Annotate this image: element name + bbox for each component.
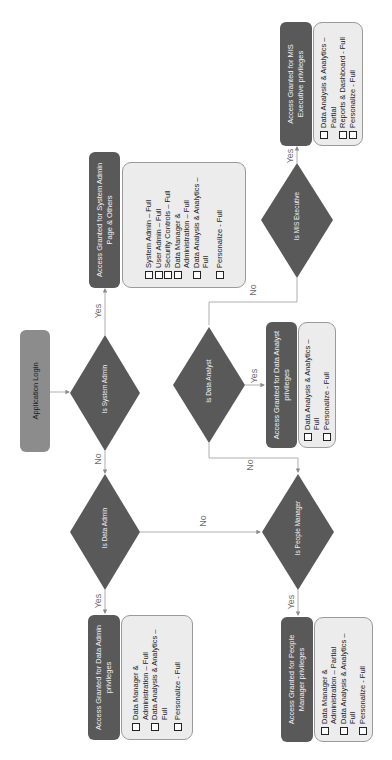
checkbox-icon	[304, 433, 312, 441]
outcome-title: Access Granted for Data Admin privileges	[94, 621, 114, 734]
checkbox-icon	[349, 131, 357, 139]
checkbox-icon	[155, 271, 163, 279]
privilege-item: Personalize - Full	[348, 29, 358, 139]
outcome-body-data-analyst: Data Analysis & Analytics – Full Persona…	[298, 322, 336, 448]
privilege-item: Data Analysis & Analytics – Full	[150, 624, 169, 731]
checkbox-icon	[339, 131, 347, 139]
checkbox-icon	[340, 727, 348, 735]
privilege-item: Data Manager & Administration – Full	[173, 171, 192, 279]
edge-label-mis-executive-yes: Yes	[285, 144, 295, 168]
checkbox-icon	[164, 271, 172, 279]
decision-label-mis-executive: Is MIS Executive	[293, 186, 301, 246]
edge-label-mis-executive-no: No	[248, 278, 258, 302]
checkbox-icon	[320, 131, 328, 139]
privilege-item: Personalize - Full	[215, 171, 225, 279]
outcome-title: Access Granted for MIS Executive privile…	[286, 28, 306, 140]
outcome-title: Access Granted for People Manager privil…	[287, 623, 307, 736]
checkbox-icon	[216, 271, 224, 279]
edge-label-data-analyst-no: No	[245, 453, 255, 477]
outcome-header-mis-executive: Access Granted for MIS Executive privile…	[280, 22, 312, 146]
privilege-item: Personalize - Full	[173, 624, 183, 731]
privilege-item: Data Manager & Administration – Full	[131, 624, 150, 731]
edge-label-data-analyst-yes: Yes	[249, 364, 259, 388]
start-label: Application Login	[31, 362, 40, 419]
edge-label-system-admin-yes: Yes	[93, 299, 103, 323]
privilege-item: Data Analysis & Analytics – Full	[303, 329, 322, 441]
checkbox-icon	[193, 271, 201, 279]
checkbox-icon	[174, 723, 182, 731]
checkbox-icon	[323, 433, 331, 441]
decision-label-data-admin: Is Data Admin	[101, 498, 109, 558]
decision-label-people-manager: Is People Manager	[294, 498, 302, 558]
checkbox-icon	[151, 723, 159, 731]
privilege-item: System Admin – Full	[144, 171, 154, 279]
checkbox-icon	[359, 727, 367, 735]
privilege-item: Personalize - Full	[358, 624, 368, 735]
privilege-item: Data Analysis & Analytics – Partial	[319, 29, 338, 139]
checkbox-icon	[145, 271, 153, 279]
edge-label-data-admin-yes: Yes	[93, 589, 103, 613]
outcome-header-people-manager: Access Granted for People Manager privil…	[281, 617, 313, 742]
outcome-header-system-admin: Access Granted for System Admin Page & O…	[89, 152, 120, 288]
outcome-body-data-admin: Data Manager & Administration – Full Dat…	[121, 615, 193, 740]
outcome-header-data-analyst: Access Granted for Data Analyst privileg…	[266, 322, 297, 448]
outcome-body-mis-executive: Data Analysis & Analytics – Partial Repo…	[313, 22, 363, 146]
outcome-title: Access Granted for System Admin Page & O…	[95, 158, 115, 282]
privilege-item: Personalize - Full	[322, 329, 332, 441]
privilege-item: Reports & Dashboard - Full	[338, 29, 348, 139]
privilege-item: Data Manager & Administration – Partial	[320, 624, 339, 735]
outcome-title: Access Granted for Data Analyst privileg…	[272, 328, 292, 442]
decision-label-system-admin: Is System Admin	[101, 359, 109, 419]
decision-label-data-analyst: Is Data Analyst	[205, 351, 213, 411]
privilege-item: Security Controls – Full	[163, 171, 173, 279]
outcome-body-people-manager: Data Manager & Administration – Partial …	[314, 617, 373, 742]
edge-label-people-manager-yes: Yes	[286, 590, 296, 614]
outcome-header-data-admin: Access Granted for Data Admin privileges	[88, 615, 120, 740]
privilege-item: Data Analysis & Analytics – Full	[339, 624, 358, 735]
checkbox-icon	[132, 723, 140, 731]
privilege-item: Data Analysis & Analytics – Full	[192, 171, 211, 279]
start-application-login: Application Login	[20, 330, 50, 452]
checkbox-icon	[321, 727, 329, 735]
flowchart-canvas: Is System Admin Is Data Admin Is Data An…	[0, 0, 392, 760]
edge-label-system-admin-no: No	[93, 447, 103, 471]
edge-label-data-admin-no: No	[198, 509, 208, 533]
outcome-body-system-admin: System Admin – Full User Admin – Full Se…	[122, 162, 246, 288]
checkbox-icon	[174, 271, 182, 279]
privilege-item: User Admin – Full	[154, 171, 164, 279]
